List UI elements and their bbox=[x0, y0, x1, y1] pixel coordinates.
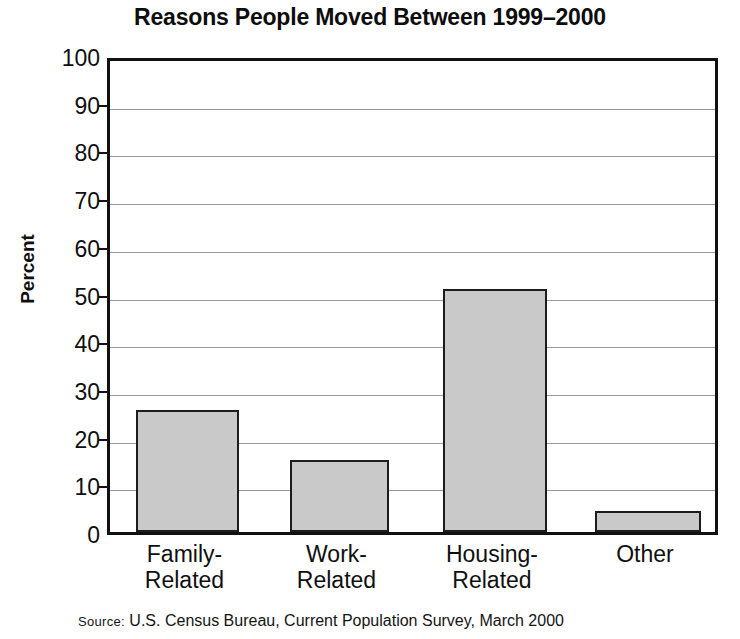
source-text: U.S. Census Bureau, Current Population S… bbox=[129, 612, 564, 629]
y-axis-tick-mark bbox=[98, 486, 107, 488]
bar[interactable] bbox=[443, 289, 547, 532]
bar[interactable] bbox=[290, 460, 389, 532]
y-axis-tick-label: 50 bbox=[16, 283, 100, 310]
y-axis-tick-label: 30 bbox=[16, 378, 100, 405]
y-axis-tick-label: 40 bbox=[16, 331, 100, 358]
gridline bbox=[110, 252, 715, 253]
gridline bbox=[110, 156, 715, 157]
bar[interactable] bbox=[136, 410, 239, 532]
y-axis-tick-label: 70 bbox=[16, 188, 100, 215]
y-axis-tick-mark bbox=[98, 296, 107, 298]
gridline bbox=[110, 300, 715, 301]
y-axis-tick-mark bbox=[98, 439, 107, 441]
y-axis-tick-mark bbox=[98, 343, 107, 345]
y-axis-tick-mark bbox=[98, 200, 107, 202]
y-axis-tick-mark bbox=[98, 152, 107, 154]
y-axis-tick-label: 80 bbox=[16, 140, 100, 167]
x-axis-tick-label: Other bbox=[555, 541, 735, 567]
y-axis-tick-labels: 1009080706050403020100 bbox=[0, 0, 100, 639]
plot-area bbox=[107, 58, 718, 535]
gridline bbox=[110, 395, 715, 396]
y-axis-tick-label: 100 bbox=[16, 45, 100, 72]
gridline bbox=[110, 204, 715, 205]
y-axis-tick-label: 90 bbox=[16, 92, 100, 119]
bar[interactable] bbox=[595, 511, 701, 532]
bar-chart-figure: Reasons People Moved Between 1999–2000 P… bbox=[0, 0, 740, 639]
y-axis-tick-mark bbox=[98, 248, 107, 250]
source-label: Source: bbox=[78, 614, 125, 629]
y-axis-tick-label: 10 bbox=[16, 474, 100, 501]
x-axis-tick-label: Work- Related bbox=[247, 541, 427, 593]
chart-title: Reasons People Moved Between 1999–2000 bbox=[0, 4, 740, 31]
source-note: Source: U.S. Census Bureau, Current Popu… bbox=[78, 612, 564, 630]
y-axis-tick-label: 20 bbox=[16, 426, 100, 453]
y-axis-tick-mark bbox=[98, 391, 107, 393]
y-axis-tick-label: 0 bbox=[16, 522, 100, 549]
gridline bbox=[110, 347, 715, 348]
gridline bbox=[110, 109, 715, 110]
y-axis-tick-label: 60 bbox=[16, 235, 100, 262]
y-axis-tick-mark bbox=[98, 105, 107, 107]
